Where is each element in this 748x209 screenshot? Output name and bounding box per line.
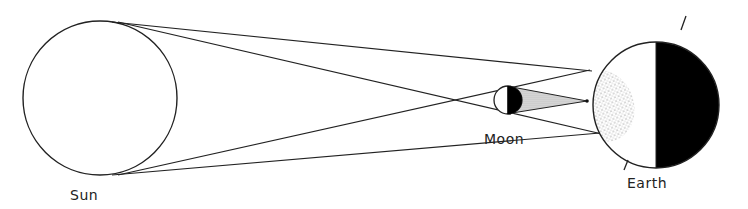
umbra-tip bbox=[585, 99, 589, 103]
earth bbox=[564, 16, 726, 170]
umbra-cone bbox=[512, 87, 587, 113]
earth-axis-north bbox=[681, 16, 686, 30]
earth-night-side bbox=[656, 40, 726, 170]
sun-circle bbox=[23, 21, 177, 175]
moon-label: Moon bbox=[484, 131, 524, 147]
earth-label: Earth bbox=[627, 175, 667, 191]
earth-axis-south bbox=[624, 160, 628, 170]
sun-label: Sun bbox=[70, 187, 98, 203]
